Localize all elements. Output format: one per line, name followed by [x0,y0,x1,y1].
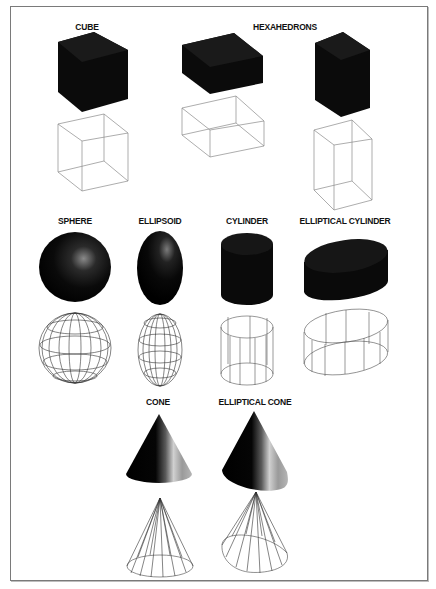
elliptical-cylinder-wireframe [302,304,390,379]
hexahedron-wide-solid [182,33,263,94]
cylinder-solid [221,233,273,305]
elliptical-cone-wireframe [222,492,288,573]
hexahedron-wide-wireframe [182,96,264,157]
elliptical-cylinder-solid [302,234,390,300]
ellipsoid-solid [137,231,183,305]
sphere-solid [39,232,111,302]
cube-wireframe [58,114,128,191]
cylinder-wireframe [221,316,273,385]
shapes-canvas [0,0,436,589]
cube-solid [58,32,128,112]
cone-wireframe [127,498,193,577]
ellipsoid-wireframe [138,314,182,386]
hexahedron-tall-wireframe [314,120,372,210]
cone-solid [126,414,192,483]
hexahedron-tall-solid [315,32,370,117]
elliptical-cone-solid [222,411,288,491]
sphere-wireframe [39,313,111,383]
